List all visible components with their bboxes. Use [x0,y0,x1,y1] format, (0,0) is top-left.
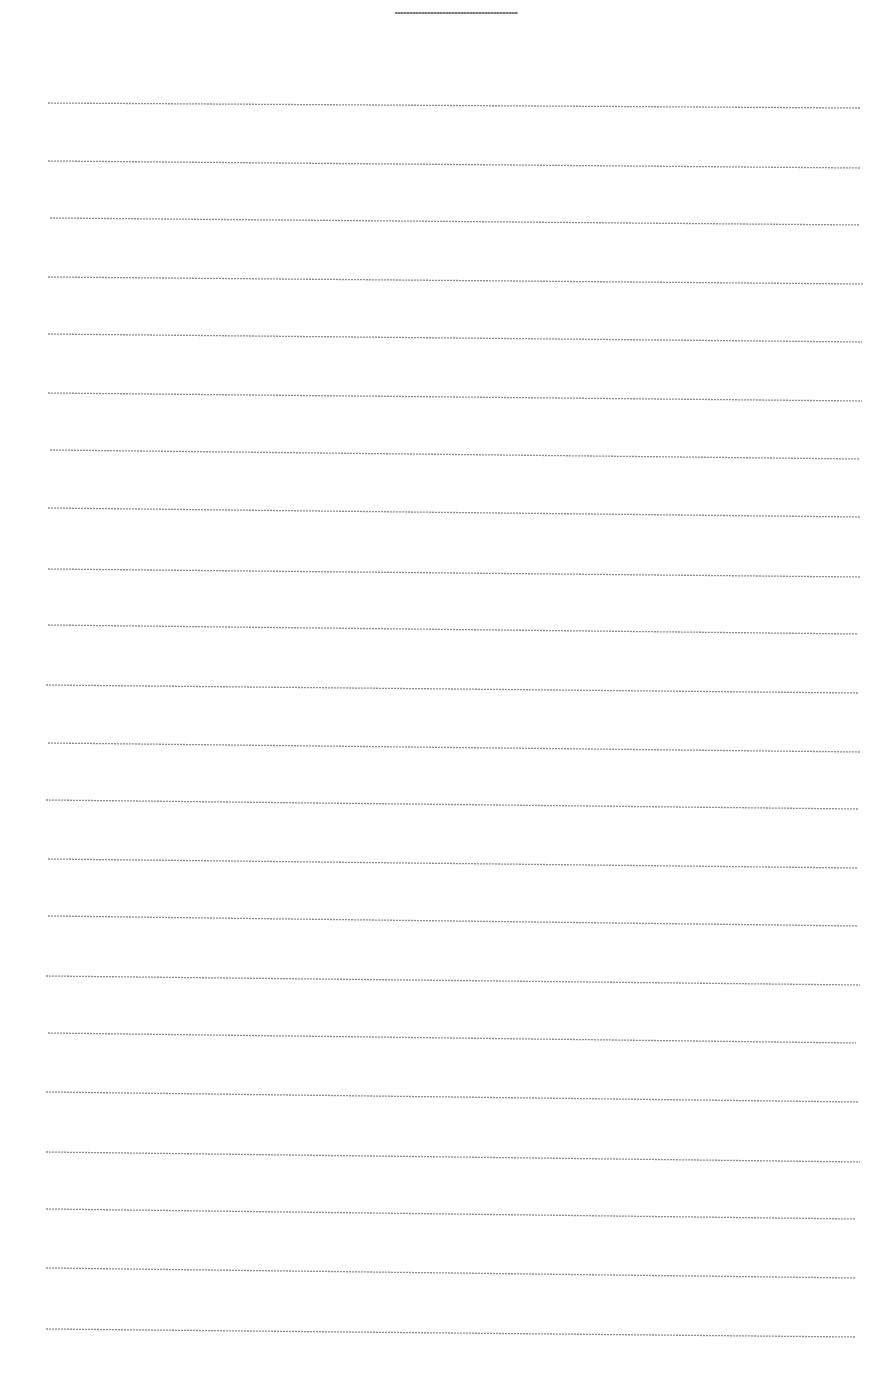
ruled-line [48,103,860,108]
ruled-line [48,508,860,517]
lined-paper-sheet [0,0,882,1397]
ruled-line [46,1329,855,1337]
ruled-line [48,393,862,401]
ruled-line [48,277,864,284]
ruled-line [48,743,860,752]
ruled-line [50,218,860,225]
ruled-line [46,685,858,693]
ruled-line [48,334,862,342]
ruled-line [46,1268,856,1278]
ruled-line [46,976,860,985]
ruled-line [46,1092,858,1102]
ruled-line [46,1152,860,1162]
ruled-line [48,1033,856,1043]
ruled-line [48,161,860,168]
ruled-line [46,800,858,809]
ruled-line [48,916,858,926]
ruled-lines [0,0,882,1397]
ruled-line [48,625,858,634]
ruled-line [48,859,858,868]
ruled-line [46,1209,856,1219]
ruled-line [48,569,860,577]
ruled-line [50,450,860,459]
